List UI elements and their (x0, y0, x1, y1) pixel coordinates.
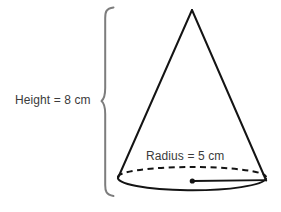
height-label: Height = 8 cm (15, 94, 91, 107)
cone-diagram: Height = 8 cm Radius = 5 cm (0, 0, 281, 212)
height-brace-icon (102, 8, 114, 197)
base-center-point (190, 178, 195, 183)
radius-label: Radius = 5 cm (146, 150, 224, 163)
radius-segment (193, 180, 266, 181)
cone-base-hidden-arc (118, 167, 266, 177)
